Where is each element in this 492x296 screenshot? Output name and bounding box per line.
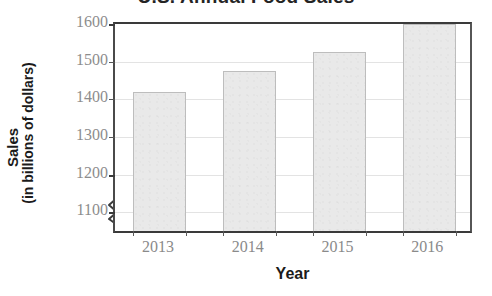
x-axis-tick-mark [133, 231, 134, 236]
x-axis-tick-label-2013: 2013 [123, 238, 193, 256]
bar-2014 [223, 71, 276, 231]
y-axis-tick-mark [109, 62, 115, 63]
y-axis-tick-mark [109, 212, 115, 214]
y-axis-title-line2: (in billions of dollars) [20, 53, 36, 213]
y-axis-tick-labels: 110012001300140015001600 [56, 0, 108, 296]
x-axis-tick-label-2015: 2015 [302, 238, 372, 256]
x-axis-tick-mark [456, 231, 457, 236]
x-axis-tick-mark [186, 231, 187, 236]
bar-2013 [133, 92, 186, 231]
y-axis-tick-label: 1100 [60, 202, 108, 218]
x-axis-tick-mark [313, 231, 314, 236]
x-axis-tick-mark [223, 231, 224, 236]
y-axis-tick-label: 1300 [60, 127, 108, 143]
y-axis-title-line1: Sales [4, 115, 21, 181]
y-axis-tick-mark [109, 175, 115, 177]
plot-area [113, 22, 472, 233]
x-axis-tick-mark [403, 231, 404, 236]
x-axis-title: Year [113, 265, 472, 283]
y-axis-tick-label: 1400 [60, 89, 108, 105]
x-axis-tick-mark [366, 231, 367, 236]
x-axis-tick-label-2016: 2016 [392, 238, 462, 256]
x-axis-tick-label-2014: 2014 [213, 238, 283, 256]
x-axis-tick-mark [276, 231, 277, 236]
y-axis-tick-label: 1200 [60, 165, 108, 181]
y-axis-tick-mark [109, 137, 115, 138]
y-axis-tick-mark [109, 24, 115, 26]
bar-2015 [313, 52, 366, 231]
y-axis-tick-label: 1500 [60, 52, 108, 68]
chart-figure: U.S. Annual Food Sales Sales (in billion… [0, 0, 492, 296]
bar-2016 [403, 24, 456, 231]
y-axis-tick-mark [109, 99, 115, 100]
y-axis-tick-label: 1600 [60, 14, 108, 30]
